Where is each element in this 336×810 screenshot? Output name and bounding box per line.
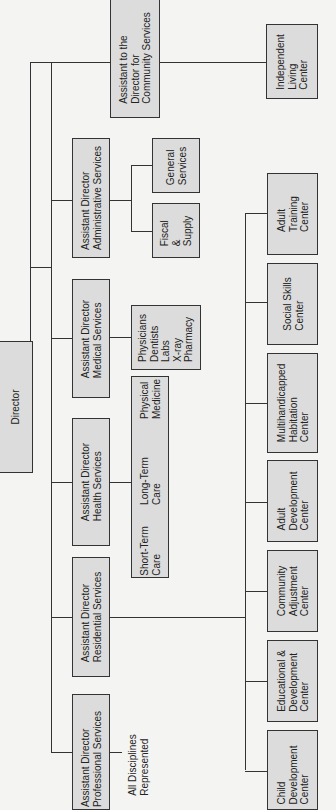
professional-sub-line xyxy=(110,752,122,753)
independent-living-box: Independent Living Center xyxy=(266,24,318,99)
professional-services-box: Assistant Director Professional Services xyxy=(72,694,110,810)
center-link xyxy=(245,681,267,682)
director-box: Director xyxy=(0,341,33,473)
health-care-box: Physical Medicine Long-Term Care Short-T… xyxy=(131,376,169,578)
professional-branch-line xyxy=(51,752,72,753)
general-link xyxy=(131,165,152,166)
physical-medicine-label: Physical Medicine xyxy=(139,379,162,419)
residential-branch-line xyxy=(51,617,72,618)
fiscal-link xyxy=(131,231,152,232)
center-box: Community Adjustment Center xyxy=(267,550,318,632)
general-services-box: General Services xyxy=(152,138,200,193)
centers-bus-line xyxy=(245,213,246,770)
residential-services-box: Assistant Director Residential Services xyxy=(72,557,110,677)
center-box: Adult Development Center xyxy=(267,460,318,542)
physicians-label: Physicians Dentists Labs X-ray Pharmacy xyxy=(137,314,195,362)
residential-services-label: Assistant Director Residential Services xyxy=(80,572,103,663)
admin-branch-line xyxy=(51,200,72,201)
community-to-independent-line xyxy=(159,62,266,63)
medical-sub-line xyxy=(110,337,131,338)
center-label: Child Development Center xyxy=(275,745,310,804)
all-disciplines-note: All Disciplines Represented xyxy=(124,720,152,810)
independent-living-label: Independent Living Center xyxy=(275,34,310,90)
center-label: Adult Training Center xyxy=(275,196,310,232)
director-stem-line xyxy=(30,262,31,342)
center-link xyxy=(245,771,267,772)
admin-sub-bus xyxy=(131,165,132,231)
main-spine-line xyxy=(51,62,52,753)
administrative-services-box: Assistant Director Administrative Servic… xyxy=(72,138,110,258)
center-box: Social Skills Center xyxy=(267,263,318,345)
center-link xyxy=(245,502,267,503)
administrative-services-label: Assistant Director Administrative Servic… xyxy=(80,146,103,250)
fiscal-supply-label: Fiscal & Supply xyxy=(159,215,194,246)
center-link xyxy=(245,403,267,404)
professional-services-label: Assistant Director Professional Services xyxy=(80,711,103,807)
health-sub-line xyxy=(110,482,131,483)
director-label: Director xyxy=(10,389,22,424)
medical-services-label: Assistant Director Medical Services xyxy=(80,299,103,377)
center-label: Social Skills Center xyxy=(281,277,304,330)
short-term-care-label: Short-Term Care xyxy=(139,526,162,575)
center-box: Multihandicapped Habitation Center xyxy=(267,353,318,453)
center-label: Adult Development Center xyxy=(275,472,310,531)
community-branch-line xyxy=(30,62,110,63)
all-disciplines-label: All Disciplines Represented xyxy=(127,734,150,796)
health-services-label: Assistant Director Health Services xyxy=(80,443,103,521)
long-term-care-label: Long-Term Care xyxy=(139,457,162,505)
general-services-label: General Services xyxy=(165,146,188,184)
director-to-spine-line xyxy=(30,267,51,268)
medical-services-box: Assistant Director Medical Services xyxy=(72,279,110,398)
center-label: Educational & Development Center xyxy=(275,650,310,712)
center-link xyxy=(245,302,267,303)
fiscal-supply-box: Fiscal & Supply xyxy=(152,203,200,258)
center-link xyxy=(245,213,267,214)
center-label: Multihandicapped Habitation Center xyxy=(275,364,310,442)
admin-sub-line xyxy=(110,200,131,201)
residential-to-centers-line xyxy=(110,617,245,618)
center-box: Educational & Development Center xyxy=(267,640,318,722)
center-box: Child Development Center xyxy=(267,730,318,810)
health-services-box: Assistant Director Health Services xyxy=(72,418,110,546)
center-label: Community Adjustment Center xyxy=(275,566,310,617)
community-services-box: Assistant to the Director for Community … xyxy=(110,0,160,118)
community-services-label: Assistant to the Director for Community … xyxy=(118,12,153,104)
center-box: Adult Training Center xyxy=(267,173,318,255)
health-branch-line xyxy=(51,482,72,483)
center-link xyxy=(245,591,267,592)
physicians-box: Physicians Dentists Labs X-ray Pharmacy xyxy=(131,305,201,370)
medical-branch-line xyxy=(51,338,72,339)
